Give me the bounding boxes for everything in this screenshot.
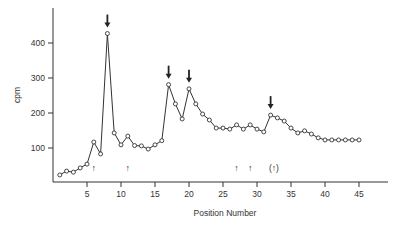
up-arrow-icon: ↑ [248,163,253,173]
data-point [58,173,62,177]
data-point [173,102,177,106]
y-tick-label: 200 [31,108,45,118]
x-tick-label: 45 [354,189,364,199]
data-point [167,83,171,87]
data-point [71,170,75,174]
parenthesized-up-arrow-icon: (↑) [269,163,279,173]
data-point [78,166,82,170]
data-point [262,130,266,134]
x-axis-title: Position Number [194,208,257,218]
peak-down-arrow-icon [104,15,110,28]
data-point [309,132,313,136]
axes: 51015202530354045100200300400 [31,8,388,199]
data-point [194,102,198,106]
x-tick-label: 10 [116,189,126,199]
data-point [221,126,225,130]
data-point [126,134,130,138]
y-tick-label: 100 [31,143,45,153]
y-tick-label: 400 [31,38,45,48]
data-point [133,144,137,148]
data-point [65,169,69,173]
series-line [60,34,359,175]
x-tick-label: 35 [286,189,296,199]
data-point [99,152,103,156]
data-point [323,138,327,142]
annotations: ↑↑↑↑(↑) [92,15,280,173]
up-arrow-icon: ↑ [126,163,131,173]
data-point [187,87,191,91]
data-point [343,138,347,142]
data-point [255,127,259,131]
data-point [269,113,273,117]
peak-down-arrow-icon [166,66,172,79]
data-point [207,118,211,122]
data-point [214,126,218,130]
up-arrow-icon: ↑ [234,163,239,173]
x-tick-label: 25 [218,189,228,199]
data-point [303,129,307,133]
data-point [119,143,123,147]
data-point [316,136,320,140]
data-point [357,138,361,142]
data-point [275,116,279,120]
data-point [201,112,205,116]
x-tick-label: 20 [184,189,194,199]
data-point [289,126,293,130]
data-point [241,127,245,131]
data-point [112,131,116,135]
x-tick-label: 40 [320,189,330,199]
data-point [85,162,89,166]
data-point [180,117,184,121]
data-point [330,138,334,142]
data-point [146,147,150,151]
data-point [296,131,300,135]
data-point [248,123,252,127]
data-point [153,143,157,147]
up-arrow-icon: ↑ [92,163,97,173]
line-chart: 51015202530354045100200300400 ↑↑↑↑(↑) Po… [0,0,397,226]
data-point [160,139,164,143]
data-point [350,138,354,142]
x-tick-label: 5 [85,189,90,199]
data-point [282,119,286,123]
peak-down-arrow-icon [268,96,274,109]
x-tick-label: 30 [252,189,262,199]
x-tick-label: 15 [150,189,160,199]
chart-container: 51015202530354045100200300400 ↑↑↑↑(↑) Po… [0,0,397,226]
y-tick-label: 300 [31,73,45,83]
data-point [228,127,232,131]
data-point [92,140,96,144]
data-point [105,32,109,36]
data-series [58,32,361,177]
data-point [337,138,341,142]
data-point [235,123,239,127]
peak-down-arrow-icon [186,70,192,83]
y-axis-title: cpm [12,87,22,103]
data-point [139,144,143,148]
